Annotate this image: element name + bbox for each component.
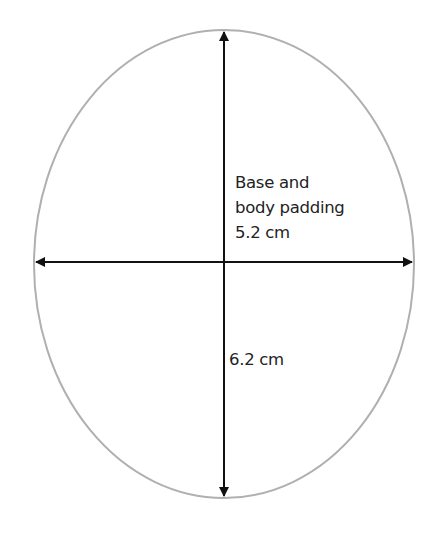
width-label-line2: body padding (235, 195, 345, 220)
width-label-line1: Base and (235, 170, 345, 195)
width-label-value: 5.2 cm (235, 220, 345, 245)
width-dimension-label: Base and body padding 5.2 cm (235, 170, 345, 245)
ellipse-dimension-diagram (0, 0, 440, 544)
height-dimension-label: 6.2 cm (229, 347, 284, 372)
